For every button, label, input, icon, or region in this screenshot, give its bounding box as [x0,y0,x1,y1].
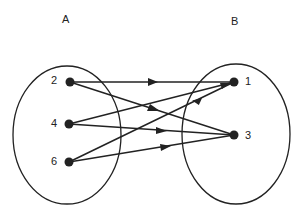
element-2-label: 2 [51,75,57,86]
arrow-6-to-3 [69,135,234,162]
arrow-4-to-1 [69,82,234,124]
node-a-2 [66,78,75,87]
element-3-label: 3 [245,130,251,141]
element-4-label: 4 [51,118,57,129]
arrowhead-2-to-3 [147,104,160,111]
arrows [69,78,234,162]
set-a-ellipse [13,66,121,204]
set-a-label: A [62,14,69,25]
set-b-label: B [231,16,238,27]
arrow-6-to-1 [69,82,234,162]
node-b-1 [230,78,239,87]
arrowhead-4-to-3 [156,127,167,134]
arrow-4-to-3 [69,124,234,135]
element-1-label: 1 [245,76,251,87]
arrowhead-2-to-1 [148,78,158,86]
node-a-4 [65,120,74,129]
node-a-6 [65,158,74,167]
element-6-label: 6 [51,156,57,167]
node-b-3 [230,131,239,140]
mapping-diagram [0,0,299,222]
